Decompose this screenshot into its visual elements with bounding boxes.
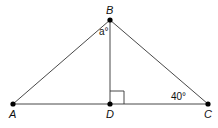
angle-label-a: a° xyxy=(99,26,109,37)
point-d xyxy=(107,101,112,106)
label-b: B xyxy=(106,4,113,16)
angle-label-40: 40° xyxy=(171,91,186,102)
label-d: D xyxy=(106,108,114,120)
label-c: C xyxy=(204,108,212,120)
segment-bc xyxy=(110,20,208,104)
point-c xyxy=(205,101,210,106)
triangle-diagram: B A D C a° 40° xyxy=(0,0,218,128)
label-a: A xyxy=(8,108,16,120)
point-a xyxy=(10,101,15,106)
point-b xyxy=(107,17,112,22)
right-angle-marker xyxy=(110,91,124,104)
segment-ab xyxy=(13,20,110,104)
